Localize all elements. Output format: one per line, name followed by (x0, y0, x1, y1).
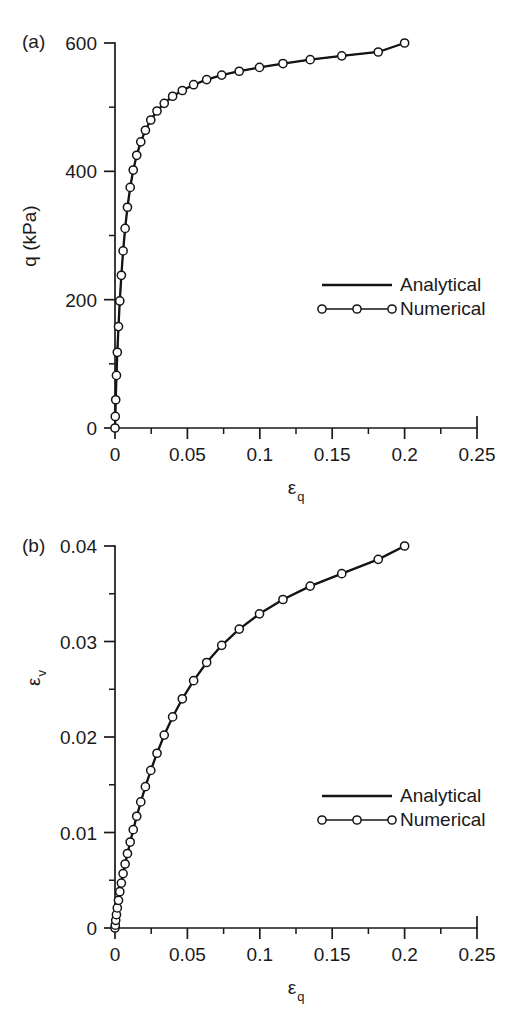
series-numerical-marker (203, 75, 211, 83)
x-tick-label: 0 (110, 944, 121, 965)
legend-swatch-numerical-marker-1 (353, 816, 361, 824)
series-numerical-marker (133, 812, 141, 820)
y-tick-label: 0.04 (60, 536, 97, 557)
x-tick-label: 0 (110, 444, 121, 465)
series-numerical-marker (129, 826, 137, 834)
series-numerical-marker (401, 39, 409, 47)
legend-label-numerical: Numerical (400, 809, 486, 830)
series-numerical-marker (190, 81, 198, 89)
legend-label-analytical: Analytical (400, 274, 481, 295)
legend-label-analytical: Analytical (400, 785, 481, 806)
series-numerical-marker (111, 412, 119, 420)
series-numerical-marker (169, 713, 177, 721)
figure-panel-b: (b)00.050.10.150.20.2500.010.020.030.04ε… (0, 506, 527, 1013)
y-tick-label: 0 (86, 418, 97, 439)
series-numerical-marker (306, 56, 314, 64)
series-numerical-marker (112, 396, 120, 404)
x-axis-title: εq (288, 477, 305, 504)
panel-label: (b) (22, 535, 45, 556)
x-tick-label: 0.1 (247, 444, 273, 465)
series-numerical-marker (113, 904, 121, 912)
series-numerical-marker (111, 424, 119, 432)
legend-swatch-numerical-marker-2 (388, 305, 396, 313)
series-numerical-marker (401, 542, 409, 550)
series-numerical-marker (374, 555, 382, 563)
axis-spines (115, 43, 477, 428)
x-tick-label: 0.15 (314, 444, 351, 465)
legend-swatch-numerical-marker-2 (388, 816, 396, 824)
y-axis-title: εv (23, 670, 49, 686)
series-numerical-marker (255, 63, 263, 71)
series-numerical-marker (160, 99, 168, 107)
legend-label-numerical: Numerical (400, 298, 486, 319)
series-numerical-marker (235, 625, 243, 633)
series-numerical-marker (117, 271, 125, 279)
series-numerical-marker (121, 860, 129, 868)
series-numerical-marker (123, 203, 131, 211)
series-numerical-marker (374, 48, 382, 56)
chart-panel-b: (b)00.050.10.150.20.2500.010.020.030.04ε… (0, 506, 527, 1013)
series-numerical-marker (123, 849, 131, 857)
series-numerical-marker (178, 86, 186, 94)
y-tick-label: 0.03 (60, 632, 97, 653)
panel-label: (a) (22, 31, 45, 52)
chart-panel-a: (a)00.050.10.150.20.250200400600εqq (kPa… (0, 0, 527, 506)
x-axis-title-subscript: q (297, 489, 304, 504)
x-tick-label: 0.2 (391, 944, 417, 965)
y-tick-label: 200 (65, 290, 97, 311)
series-numerical-marker (113, 348, 121, 356)
series-numerical-marker (338, 570, 346, 578)
series-analytical-line (115, 43, 405, 428)
series-numerical-marker (126, 183, 134, 191)
series-numerical-marker (235, 67, 243, 75)
series-numerical-marker (169, 92, 177, 100)
series-numerical-marker (147, 766, 155, 774)
x-tick-label: 0.05 (169, 944, 206, 965)
y-tick-label: 600 (65, 33, 97, 54)
series-numerical-marker (133, 151, 141, 159)
series-numerical-marker (160, 731, 168, 739)
x-tick-label: 0.25 (459, 944, 496, 965)
x-tick-label: 0.15 (314, 944, 351, 965)
series-numerical-marker (306, 582, 314, 590)
y-axis-title: q (kPa) (19, 205, 40, 266)
x-axis-title: εq (288, 977, 305, 1004)
series-numerical-line (115, 43, 405, 428)
series-numerical-marker (147, 116, 155, 124)
series-numerical-marker (126, 838, 134, 846)
series-numerical-marker (117, 879, 125, 887)
y-tick-label: 0.01 (60, 823, 97, 844)
figure-panel-a: (a)00.050.10.150.20.250200400600εqq (kPa… (0, 0, 527, 506)
series-numerical-marker (178, 695, 186, 703)
series-numerical-marker (114, 896, 122, 904)
series-numerical-marker (121, 224, 129, 232)
series-numerical-marker (153, 749, 161, 757)
series-numerical-marker (141, 126, 149, 134)
series-numerical-marker (218, 71, 226, 79)
series-numerical-marker (190, 677, 198, 685)
series-numerical-marker (137, 138, 145, 146)
axis-spines (115, 546, 477, 928)
x-tick-label: 0.25 (459, 444, 496, 465)
series-numerical-marker (218, 641, 226, 649)
x-axis-title-subscript: q (297, 989, 304, 1004)
legend-swatch-numerical-marker-0 (318, 816, 326, 824)
series-numerical-marker (119, 869, 127, 877)
legend-swatch-numerical-marker-0 (318, 305, 326, 313)
series-numerical-marker (119, 247, 127, 255)
y-axis-title-subscript: v (34, 670, 49, 677)
y-tick-label: 0.02 (60, 727, 97, 748)
series-numerical-marker (137, 798, 145, 806)
series-numerical-marker (129, 166, 137, 174)
series-numerical-line (115, 546, 405, 928)
series-numerical-marker (116, 888, 124, 896)
x-tick-label: 0.2 (391, 444, 417, 465)
series-numerical-marker (338, 52, 346, 60)
series-numerical-marker (153, 107, 161, 115)
x-tick-label: 0.05 (169, 444, 206, 465)
series-analytical-line (115, 546, 405, 928)
y-tick-label: 0 (86, 918, 97, 939)
series-numerical-marker (279, 59, 287, 67)
x-tick-label: 0.1 (247, 944, 273, 965)
series-numerical-marker (112, 371, 120, 379)
